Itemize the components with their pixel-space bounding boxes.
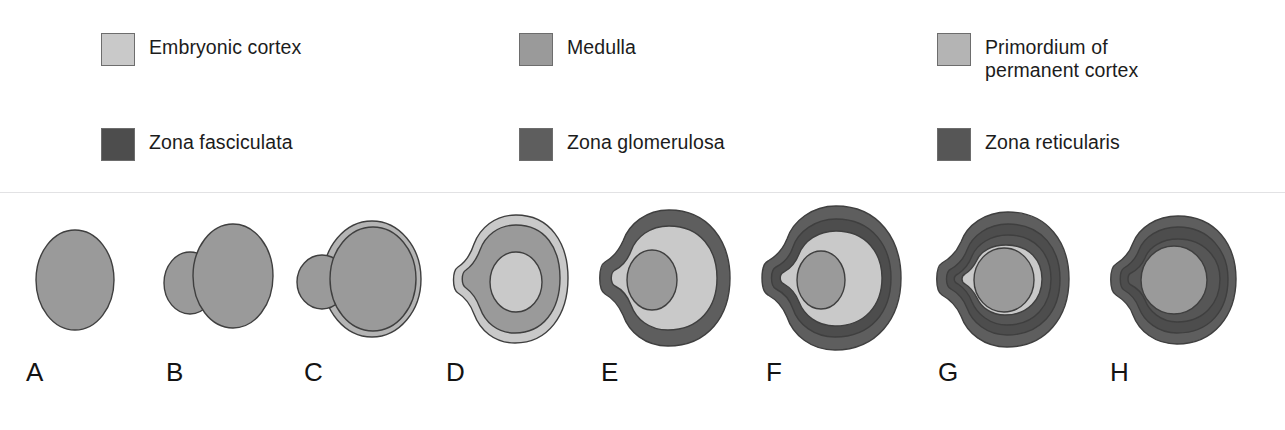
stage-label-g: G: [920, 358, 1080, 386]
legend-swatch-embryonic-cortex: [101, 33, 135, 66]
legend-swatch-primordium-of-permanent-cortex: [937, 33, 971, 66]
legend-divider: [0, 192, 1285, 193]
legend-swatch-medulla: [519, 33, 553, 66]
legend-swatch-zona-fasciculata: [101, 128, 135, 161]
medulla-shape: [36, 230, 114, 330]
legend-item-medulla: Medulla: [519, 33, 636, 66]
stage-label-h: H: [1092, 358, 1252, 386]
stage-diagram-b: B: [148, 198, 308, 430]
legend-item-zona-fasciculata: Zona fasciculata: [101, 128, 293, 161]
legend-label-zona-reticularis: Zona reticularis: [985, 128, 1120, 154]
medulla-shape: [1141, 246, 1207, 314]
stage-diagram-a: A: [8, 198, 168, 430]
legend-swatch-zona-glomerulosa: [519, 128, 553, 161]
stage-diagram-f: F: [748, 198, 908, 430]
medulla-shape: [193, 224, 273, 328]
medulla-shape: [797, 251, 845, 309]
legend-label-zona-fasciculata: Zona fasciculata: [149, 128, 293, 154]
medulla-shape: [330, 227, 416, 331]
stage-diagram-h: H: [1092, 198, 1252, 430]
legend-label-primordium-of-permanent-cortex: Primordium of permanent cortex: [985, 33, 1138, 82]
stage-label-a: A: [8, 358, 168, 386]
legend-item-zona-reticularis: Zona reticularis: [937, 128, 1120, 161]
stage-label-f: F: [748, 358, 908, 386]
legend-item-primordium-of-permanent-cortex: Primordium of permanent cortex: [937, 33, 1138, 82]
stage-diagram-e: E: [583, 198, 743, 430]
medulla-shape: [974, 248, 1034, 312]
stage-diagram-row: A B C D E: [0, 198, 1285, 430]
legend-label-zona-glomerulosa: Zona glomerulosa: [567, 128, 725, 154]
legend-label-embryonic-cortex: Embryonic cortex: [149, 33, 301, 59]
legend-item-embryonic-cortex: Embryonic cortex: [101, 33, 301, 66]
stage-diagram-c: C: [286, 198, 446, 430]
stage-label-d: D: [428, 358, 588, 386]
stage-diagram-g: G: [920, 198, 1080, 430]
legend-swatch-zona-reticularis: [937, 128, 971, 161]
legend-item-zona-glomerulosa: Zona glomerulosa: [519, 128, 725, 161]
stage-label-e: E: [583, 358, 743, 386]
legend: Embryonic cortex Medulla Primordium of p…: [0, 0, 1285, 190]
stage-label-c: C: [286, 358, 446, 386]
medulla-shape: [490, 252, 542, 312]
stage-label-b: B: [148, 358, 308, 386]
legend-label-medulla: Medulla: [567, 33, 636, 59]
medulla-shape: [627, 250, 677, 310]
stage-diagram-d: D: [428, 198, 588, 430]
